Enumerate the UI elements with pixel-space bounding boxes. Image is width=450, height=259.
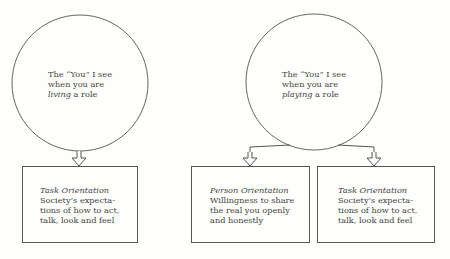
box-line: Society’s expecta-: [338, 195, 417, 205]
left-circle-label: The “You” I see when you are living a ro…: [48, 69, 112, 99]
branch-connector: [250, 145, 374, 152]
circle-line: The “You” I see: [282, 69, 346, 79]
box-line: the real you openly: [210, 205, 294, 215]
circle-line: playing a role: [282, 89, 346, 99]
box-line: Society’s expecta-: [40, 195, 119, 205]
box-line: and honestly: [210, 215, 294, 225]
emphasis-word: living: [48, 89, 71, 99]
right-task-orientation-text: Task Orientation Society’s expecta- tion…: [338, 185, 417, 225]
left-task-orientation-text: Task Orientation Society’s expecta- tion…: [40, 185, 119, 225]
circle-line-rest: a role: [71, 89, 97, 99]
circle-line: living a role: [48, 89, 112, 99]
circle-line: when you are: [48, 79, 112, 89]
box-line: tions of how to act,: [40, 205, 119, 215]
box-line: Willingness to share: [210, 195, 294, 205]
circle-line: The “You” I see: [48, 69, 112, 79]
down-arrow-icon: [367, 152, 381, 166]
circle-line-rest: a role: [313, 89, 339, 99]
box-line: talk, look and feel: [40, 215, 119, 225]
box-line: tions of how to act,: [338, 205, 417, 215]
circle-line: when you are: [282, 79, 346, 89]
box-title: Task Orientation: [338, 185, 417, 195]
down-arrow-icon: [243, 152, 257, 166]
person-orientation-text: Person Orientation Willingness to share …: [210, 185, 294, 225]
box-title: Person Orientation: [210, 185, 294, 195]
box-line: talk, look and feel: [338, 215, 417, 225]
box-title: Task Orientation: [40, 185, 119, 195]
down-arrow-icon: [72, 151, 86, 166]
right-circle-label: The “You” I see when you are playing a r…: [282, 69, 346, 99]
emphasis-word: playing: [282, 89, 313, 99]
